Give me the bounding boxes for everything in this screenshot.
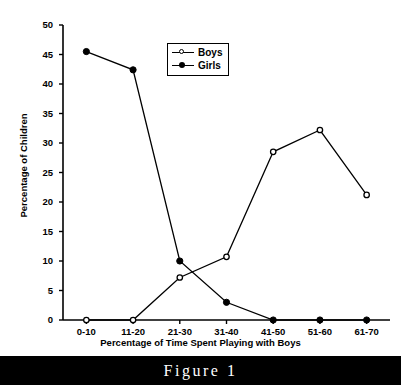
y-tick-label: 45 (27, 50, 53, 60)
data-point-filled (130, 67, 136, 73)
open-circle-marker-icon (171, 47, 195, 59)
data-point-open (224, 254, 229, 259)
figure-caption-text: Figure 1 (164, 362, 238, 380)
data-point-filled (223, 299, 229, 305)
x-tick-label: 61-70 (340, 326, 394, 337)
x-axis-title: Percentage of Time Spent Playing with Bo… (0, 337, 401, 348)
figure-caption-bar: Figure 1 (0, 356, 401, 385)
legend-label-girls: Girls (195, 60, 221, 71)
series-line (86, 130, 366, 320)
legend-label-boys: Boys (195, 47, 222, 58)
y-tick-label: 25 (27, 168, 53, 178)
figure-1: 05101520253035404550 0-1011-2021-3031-40… (0, 0, 401, 385)
legend-entry-girls: Girls (171, 59, 222, 72)
series-boys (84, 127, 370, 322)
y-tick-label: 20 (27, 197, 53, 207)
y-axis-title: Percentage of Children (18, 81, 29, 251)
y-tick-label: 5 (27, 286, 53, 296)
series-girls (83, 48, 369, 323)
data-series-layer (83, 48, 369, 323)
y-tick-label: 35 (27, 109, 53, 119)
data-point-open (364, 192, 369, 197)
data-point-filled (83, 48, 89, 54)
filled-circle-marker-icon (171, 60, 195, 72)
data-point-open (130, 317, 135, 322)
data-point-open (317, 127, 322, 132)
y-tick-label: 15 (27, 227, 53, 237)
line-chart: 05101520253035404550 0-1011-2021-3031-40… (0, 0, 401, 352)
data-point-filled (270, 317, 276, 323)
data-point-filled (317, 317, 323, 323)
chart-legend: Boys Girls (167, 43, 229, 76)
y-tick-label: 0 (27, 315, 53, 325)
legend-entry-boys: Boys (171, 46, 222, 59)
data-point-open (271, 149, 276, 154)
y-tick-label: 50 (27, 20, 53, 30)
data-point-open (177, 275, 182, 280)
y-tick-label: 10 (27, 256, 53, 266)
series-line (86, 52, 366, 320)
data-point-filled (364, 317, 370, 323)
y-tick-label: 40 (27, 79, 53, 89)
y-tick-label: 30 (27, 138, 53, 148)
data-point-open (84, 317, 89, 322)
data-point-filled (177, 258, 183, 264)
